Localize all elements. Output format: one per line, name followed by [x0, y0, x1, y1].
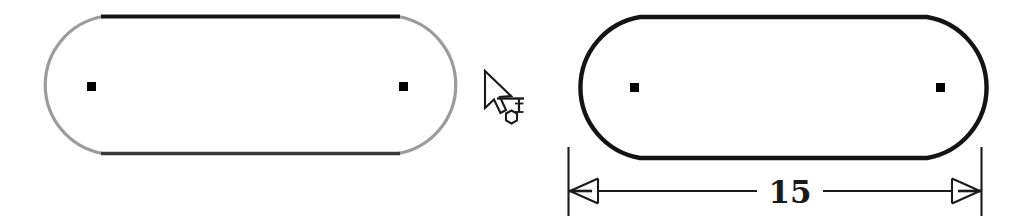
slot-shape-preview[interactable] [45, 17, 456, 154]
dimension-value-label[interactable]: 15 [768, 174, 811, 210]
cad-canvas[interactable]: Slot shape preview and dimensioned resul… [0, 0, 1030, 223]
dimensioned-outline [580, 17, 986, 158]
center-marker-icon[interactable] [399, 82, 408, 91]
center-marker-icon[interactable] [936, 83, 945, 92]
tool-hexagon-node-icon [506, 111, 517, 124]
slot-shape-dimensioned[interactable] [580, 17, 986, 158]
measure-tool-cursor[interactable] [485, 71, 524, 124]
cad-drawing-surface[interactable]: 15 [0, 0, 1030, 223]
arrow-pointer-icon[interactable] [485, 71, 511, 113]
center-marker-icon[interactable] [87, 82, 96, 91]
center-marker-icon[interactable] [630, 83, 639, 92]
